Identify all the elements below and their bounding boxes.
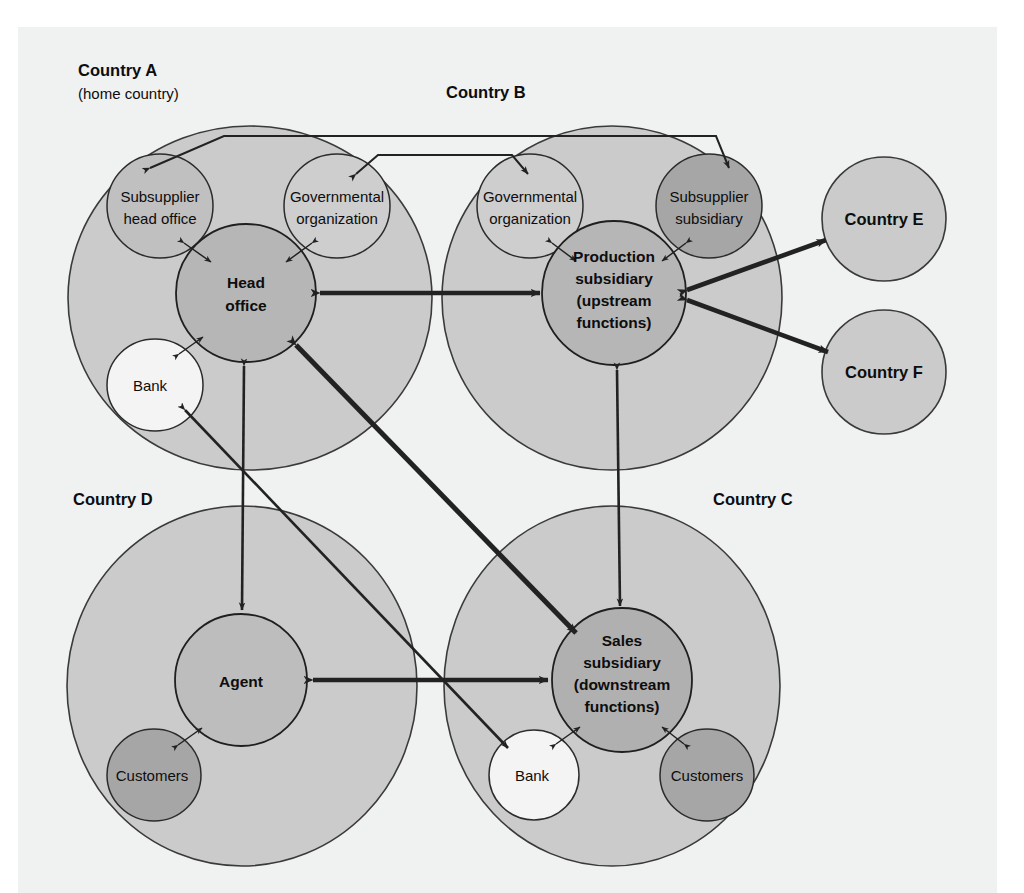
label-head-office-line1: Head (227, 274, 265, 291)
label-gov-org-b-line1: Governmental (483, 188, 577, 205)
label-agent: Agent (219, 673, 263, 690)
label-subsupplier-head-office-line2: head office (123, 210, 196, 227)
label-subsupplier-subsidiary-line2: subsidiary (675, 210, 743, 227)
label-gov-org-a-line2: organization (296, 210, 378, 227)
label-sales-subsidiary-line3: (downstream (574, 676, 670, 693)
label-head-office-line2: office (225, 297, 267, 314)
label-country-f: Country F (845, 363, 923, 381)
label-production-subsidiary-line2: subsidiary (575, 270, 653, 287)
country-label-b-title: Country B (446, 83, 526, 101)
label-customers-d-line1: Customers (116, 767, 189, 784)
label-country-e-line1: Country E (845, 210, 924, 228)
label-sales-subsidiary-line1: Sales (602, 632, 643, 649)
country-label-a: Country A (home country) (78, 61, 179, 102)
country-label-d: Country D (73, 490, 153, 508)
label-bank-a-line1: Bank (133, 377, 168, 394)
country-label-b: Country B (446, 83, 526, 101)
label-bank-c: Bank (515, 767, 550, 784)
label-country-e: Country E (845, 210, 924, 228)
label-agent-line1: Agent (219, 673, 263, 690)
country-label-c: Country C (713, 490, 793, 508)
label-gov-org-b-line2: organization (489, 210, 571, 227)
node-gov-org-a[interactable] (284, 154, 390, 258)
label-sales-subsidiary-line2: subsidiary (583, 654, 661, 671)
label-country-f-line1: Country F (845, 363, 923, 381)
network-diagram: Country A (home country) Country B Count… (0, 0, 1024, 893)
label-bank-c-line1: Bank (515, 767, 550, 784)
node-subsupplier-subsidiary[interactable] (656, 154, 762, 258)
label-customers-c-line1: Customers (671, 767, 744, 784)
label-sales-subsidiary-line4: functions) (585, 698, 660, 715)
country-label-d-title: Country D (73, 490, 153, 508)
label-subsupplier-head-office-line1: Subsupplier (120, 188, 199, 205)
label-subsupplier-subsidiary-line1: Subsupplier (669, 188, 748, 205)
figure-canvas: Figure 3.3 An example of an internationa… (0, 0, 1024, 893)
label-production-subsidiary-line1: Production (573, 248, 655, 265)
country-label-a-title: Country A (78, 61, 157, 79)
country-label-c-title: Country C (713, 490, 793, 508)
country-label-a-sub: (home country) (78, 85, 179, 102)
label-customers-d: Customers (116, 767, 189, 784)
label-bank-a: Bank (133, 377, 168, 394)
label-production-subsidiary-line4: functions) (577, 314, 652, 331)
label-gov-org-a-line1: Governmental (290, 188, 384, 205)
label-customers-c: Customers (671, 767, 744, 784)
label-production-subsidiary-line3: (upstream (577, 292, 652, 309)
